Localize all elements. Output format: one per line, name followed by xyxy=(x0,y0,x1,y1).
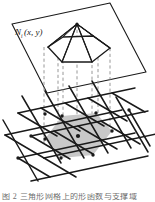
mesh-vertex xyxy=(110,129,113,132)
figure-container: N i (x, y) 图 2 三角形网格上的形函数与支撑域 xyxy=(0,0,155,202)
mesh-vertex xyxy=(43,137,46,140)
mesh-vertex xyxy=(60,114,63,117)
basis-function-diagram: N i (x, y) xyxy=(0,0,155,202)
basis-label-args: (x, y) xyxy=(24,27,42,37)
mesh-vertex xyxy=(16,156,19,159)
mesh-edge xyxy=(31,156,148,181)
mesh-vertex xyxy=(127,108,130,111)
mesh-vertex xyxy=(43,112,46,115)
basis-function-label: N i (x, y) xyxy=(14,27,42,39)
figure-caption-text: 图 2 三角形网格上的形函数与支撑域 xyxy=(2,193,137,202)
mesh-vertex xyxy=(29,134,32,137)
mesh-vertex xyxy=(59,156,62,159)
mesh-edge xyxy=(129,110,150,146)
basis-apex-vertex xyxy=(75,22,78,25)
mesh-edge xyxy=(5,135,44,158)
mesh-center-vertex xyxy=(76,134,80,138)
mesh-vertex xyxy=(94,111,97,114)
triangular-mesh-group xyxy=(3,81,155,181)
mesh-vertex xyxy=(91,153,94,156)
figure-caption: 图 2 三角形网格上的形函数与支撑域 xyxy=(0,193,155,202)
